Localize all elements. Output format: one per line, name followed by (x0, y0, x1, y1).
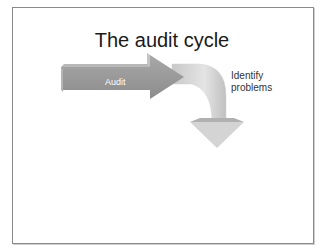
audit-label: Audit (105, 77, 126, 87)
slide-title: The audit cycle (0, 29, 324, 52)
straight-arrow-audit (61, 53, 184, 99)
identify-problems-label: Identify problems (231, 70, 272, 94)
